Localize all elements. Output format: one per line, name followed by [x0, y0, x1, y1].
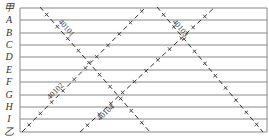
- diagram-canvas: 40101401024010340104: [0, 0, 269, 140]
- vein-label: 40103: [170, 17, 190, 38]
- vein-label: 40101: [56, 17, 76, 38]
- row-label: G: [2, 90, 16, 100]
- row-label: 乙: [2, 127, 16, 137]
- row-label: 甲: [2, 3, 16, 13]
- row-label: H: [2, 102, 16, 112]
- row-label: E: [2, 65, 16, 75]
- row-label: C: [2, 40, 16, 50]
- row-label: A: [2, 15, 16, 25]
- row-label: F: [2, 77, 16, 87]
- row-label: I: [2, 114, 16, 124]
- row-label: B: [2, 28, 16, 38]
- row-label: D: [2, 52, 16, 62]
